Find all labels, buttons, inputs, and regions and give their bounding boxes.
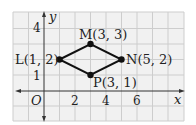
y-axis-label: y: [48, 9, 57, 24]
x-tick-2: 2: [71, 94, 79, 108]
x-tick-4: 4: [102, 94, 110, 108]
x-tick-6: 6: [133, 94, 141, 108]
point-N: [118, 56, 124, 62]
point-L-label: L(1, 2): [15, 52, 59, 67]
point-N-label: N(5, 2): [126, 52, 172, 67]
x-axis-label: x: [174, 92, 182, 107]
origin-label: O: [31, 93, 42, 108]
y-tick-1: 1: [33, 69, 41, 83]
coordinate-plane: y x O 2 4 6 1 4 L(1, 2) M(3, 3) N(5, 2) …: [0, 0, 196, 125]
point-M-label: M(3, 3): [79, 27, 127, 42]
y-tick-4: 4: [33, 21, 41, 35]
point-P-label: P(3, 1): [93, 75, 137, 90]
